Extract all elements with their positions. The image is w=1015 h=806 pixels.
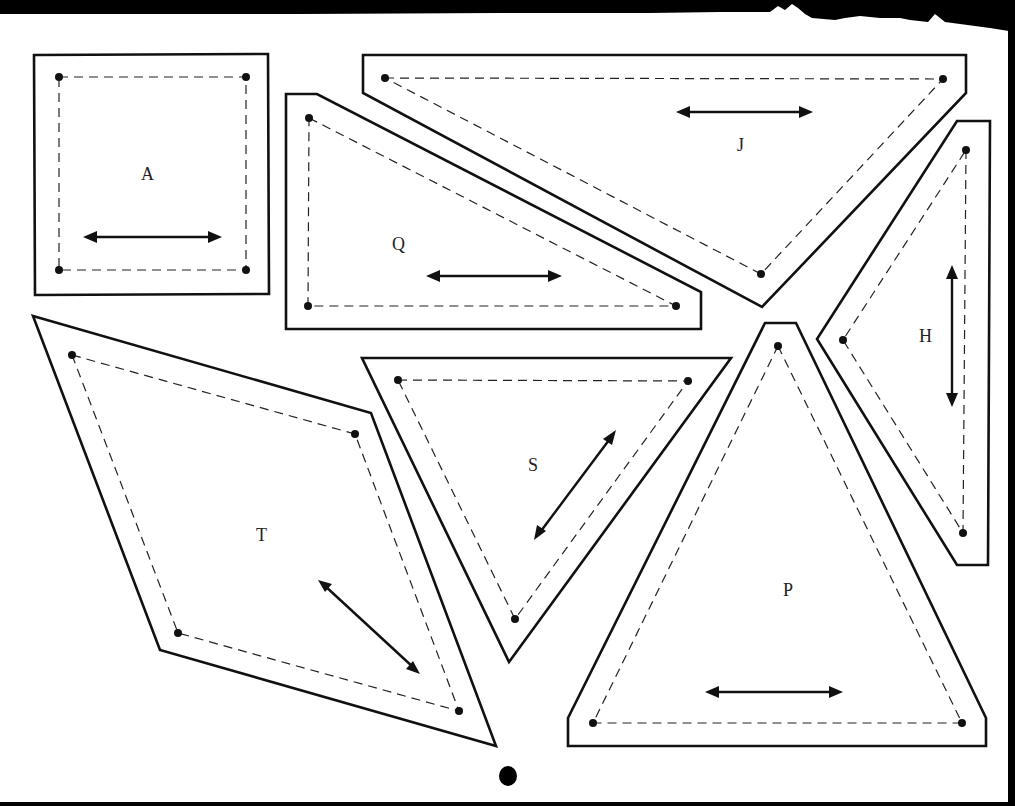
piece-s-cut-line xyxy=(362,358,731,662)
piece-h-seam-line xyxy=(843,150,966,533)
piece-q-cut-line xyxy=(286,94,701,329)
grain-arrow-icon xyxy=(426,270,562,282)
grain-arrow-icon xyxy=(705,686,843,698)
scan-border-bottom xyxy=(0,802,1015,806)
piece-p-cut-line xyxy=(568,323,986,746)
piece-q-label: Q xyxy=(392,234,405,254)
template-sheet: A J Q H xyxy=(0,0,1015,806)
piece-s[interactable]: S xyxy=(362,358,731,662)
piece-q-seam-line xyxy=(308,118,676,306)
piece-p[interactable]: P xyxy=(568,323,986,746)
piece-s-label: S xyxy=(528,455,538,475)
grain-arrow-icon xyxy=(83,231,222,243)
piece-j-seam-line xyxy=(385,78,943,274)
registration-dot xyxy=(499,766,517,786)
piece-j[interactable]: J xyxy=(363,55,966,307)
piece-q[interactable]: Q xyxy=(286,94,701,329)
piece-a[interactable]: A xyxy=(34,54,269,295)
scan-border-top xyxy=(0,0,1015,32)
piece-a-label: A xyxy=(141,164,154,184)
grain-arrow-icon xyxy=(318,580,420,674)
piece-h-label: H xyxy=(919,326,932,346)
piece-t[interactable]: T xyxy=(33,316,496,746)
grain-arrow-icon xyxy=(534,430,616,540)
piece-p-label: P xyxy=(783,580,793,600)
piece-s-seam-line xyxy=(398,380,688,619)
piece-h[interactable]: H xyxy=(817,121,990,565)
grain-arrow-icon xyxy=(946,265,958,407)
piece-j-label: J xyxy=(737,135,744,155)
piece-t-label: T xyxy=(256,525,267,545)
scan-border-right xyxy=(1008,0,1015,806)
grain-arrow-icon xyxy=(676,106,813,118)
piece-p-seam-line xyxy=(593,346,962,723)
piece-j-cut-line xyxy=(363,55,966,307)
